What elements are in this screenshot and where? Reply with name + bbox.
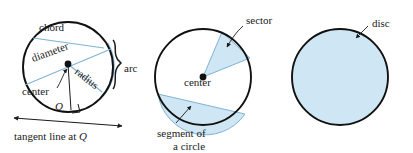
disc-region bbox=[292, 29, 388, 125]
label-chord: chord bbox=[39, 21, 65, 33]
sector-region bbox=[203, 32, 250, 77]
circle-terminology-figure: chord diameter radius center arc Q tange… bbox=[0, 0, 413, 153]
label-segment-line2: a circle bbox=[173, 140, 205, 152]
diagram-circle-parts: chord diameter radius center arc Q tange… bbox=[14, 21, 138, 142]
figure-canvas: chord diameter radius center arc Q tange… bbox=[0, 0, 413, 153]
label-arc: arc bbox=[124, 62, 138, 74]
diagram-sector-segment: sector center segment of a circle bbox=[155, 14, 273, 152]
label-tangent-point: Q bbox=[79, 130, 87, 142]
center-dot-1 bbox=[65, 61, 72, 68]
tangent-line bbox=[14, 118, 122, 126]
diagram-disc: disc bbox=[292, 17, 390, 125]
label-tangent-prefix: tangent line at bbox=[14, 130, 79, 142]
label-center-1: center bbox=[22, 85, 49, 97]
label-segment-line1: segment of bbox=[157, 127, 206, 139]
label-sector: sector bbox=[246, 14, 273, 26]
label-disc: disc bbox=[372, 17, 390, 29]
center-to-q-line bbox=[68, 64, 71, 110]
label-diameter: diameter bbox=[30, 39, 71, 64]
label-tangent-line: tangent line at Q bbox=[14, 130, 87, 142]
label-point-q: Q bbox=[55, 100, 63, 112]
label-center-2: center bbox=[184, 76, 211, 88]
center-leader-line bbox=[57, 69, 67, 88]
